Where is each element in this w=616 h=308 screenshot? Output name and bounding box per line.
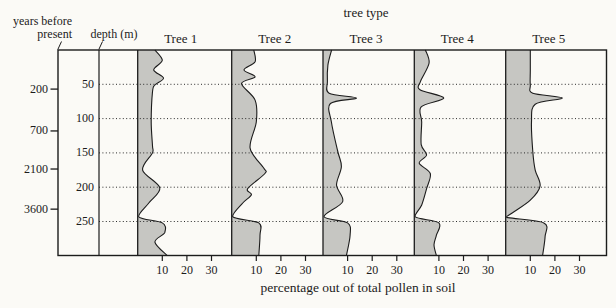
x-tick-label: 20 bbox=[275, 264, 287, 277]
year-tick-200: 200 bbox=[6, 83, 48, 96]
depth-tick-150: 150 bbox=[58, 146, 94, 159]
year-tick-3600: 3600 bbox=[6, 203, 48, 216]
depth-tick-200: 200 bbox=[58, 181, 94, 194]
x-tick-label: 10 bbox=[433, 264, 445, 277]
pollen-diagram: tree type years before present depth (m)… bbox=[0, 0, 616, 308]
x-tick-label: 20 bbox=[181, 264, 193, 277]
x-tick-label: 20 bbox=[549, 264, 561, 277]
x-axis-label: percentage out of total pollen in soil bbox=[261, 281, 456, 294]
x-tick-label: 10 bbox=[342, 264, 354, 277]
x-tick-label: 20 bbox=[366, 264, 378, 277]
years-axis-label-line2: present bbox=[0, 28, 72, 41]
depth-axis-label: depth (m) bbox=[91, 28, 138, 41]
depth-tick-250: 250 bbox=[58, 215, 94, 228]
x-tick-label: 30 bbox=[482, 264, 494, 277]
depth-axis-pointer bbox=[99, 42, 103, 50]
x-tick-label: 20 bbox=[458, 264, 470, 277]
tree-5-header: Tree 5 bbox=[532, 32, 565, 45]
years-axis-pointer bbox=[58, 42, 62, 50]
x-tick-label: 10 bbox=[524, 264, 536, 277]
year-tick-2100: 2100 bbox=[6, 163, 48, 176]
x-tick-label: 10 bbox=[250, 264, 262, 277]
chart-title: tree type bbox=[343, 6, 388, 19]
x-tick-label: 10 bbox=[156, 264, 168, 277]
x-tick-label: 30 bbox=[206, 264, 218, 277]
tree-1-header: Tree 1 bbox=[164, 32, 197, 45]
tree-2-header: Tree 2 bbox=[258, 32, 291, 45]
depth-tick-100: 100 bbox=[58, 112, 94, 125]
x-tick-label: 30 bbox=[574, 264, 586, 277]
x-tick-label: 30 bbox=[300, 264, 312, 277]
tree-4-header: Tree 4 bbox=[441, 32, 474, 45]
year-tick-700: 700 bbox=[6, 124, 48, 137]
x-tick-label: 30 bbox=[391, 264, 403, 277]
depth-tick-50: 50 bbox=[58, 78, 94, 91]
tree-3-header: Tree 3 bbox=[349, 32, 382, 45]
